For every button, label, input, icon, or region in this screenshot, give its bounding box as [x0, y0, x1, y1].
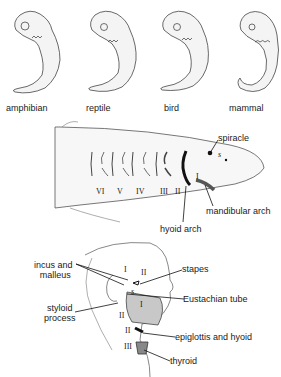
human-numeral-ear-i: I	[124, 265, 127, 274]
human-numeral-jaw-i: I	[140, 300, 143, 309]
label-epiglottis-hyoid: epiglottis and hyoid	[175, 332, 252, 342]
human-numeral-styloid-ii: II	[119, 311, 124, 320]
label-eustachian-tube: Eustachian tube	[183, 294, 248, 304]
human-s-mark: s	[131, 287, 134, 296]
arch-numeral-vi: VI	[96, 187, 104, 196]
embryo-label-amphibian: amphibian	[6, 103, 48, 113]
label-stapes: stapes	[182, 264, 209, 274]
label-incus-malleus: incus and malleus	[34, 260, 73, 280]
label-styloid-process: styloid process	[44, 303, 76, 323]
arch-numeral-v: V	[117, 187, 123, 196]
arch-numeral-ii: II	[175, 187, 180, 196]
label-thyroid: thyroid	[170, 356, 197, 366]
mammal-embryo-icon	[238, 12, 279, 92]
amphibian-embryo-icon	[13, 11, 60, 93]
human-numeral-hyoid-ii: II	[125, 326, 130, 335]
arch-numeral-iv: IV	[136, 187, 144, 196]
arch-numeral-iii: III	[160, 187, 168, 196]
embryo-label-reptile: reptile	[86, 103, 111, 113]
label-spiracle: spiracle	[218, 133, 249, 143]
reptile-embryo-icon	[89, 11, 136, 91]
stapes-shape	[133, 281, 139, 285]
label-hyoid-arch: hyoid arch	[160, 224, 202, 234]
ear-outline	[107, 275, 117, 301]
embryo-label-mammal: mammal	[229, 103, 264, 113]
spiracle-mark: s	[218, 150, 221, 159]
hyoid-shape	[135, 328, 143, 332]
human-numeral-thyroid-iii: III	[124, 342, 132, 351]
bird-embryo-icon	[161, 11, 209, 90]
arch-numeral-i: I	[196, 172, 199, 181]
label-mandibular-arch: mandibular arch	[206, 206, 271, 216]
thyroid-shape	[136, 342, 148, 354]
embryo-label-bird: bird	[164, 103, 179, 113]
human-numeral-ear-ii: II	[141, 268, 146, 277]
